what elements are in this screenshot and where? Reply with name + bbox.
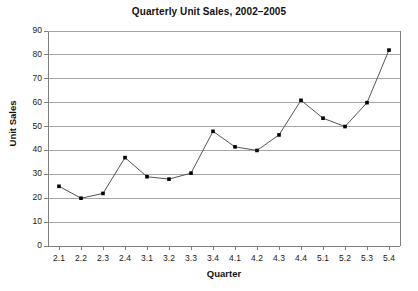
data-point-marker (101, 192, 105, 196)
data-point-marker (233, 145, 237, 149)
y-tick-label: 10 (14, 216, 42, 226)
data-point-marker (211, 130, 215, 134)
x-tick-marks (59, 246, 389, 250)
y-tick-marks (44, 31, 48, 246)
data-point-marker (365, 101, 369, 105)
y-tick-label: 70 (14, 73, 42, 83)
data-point-marker (277, 133, 281, 137)
data-point-marker (299, 98, 303, 102)
y-tick-label: 50 (14, 121, 42, 131)
data-point-marker (57, 184, 61, 188)
data-point-marker (123, 156, 127, 160)
y-tick-label: 0 (14, 240, 42, 250)
data-point-marker (145, 175, 149, 179)
plot-area (0, 0, 418, 291)
data-point-marker (167, 177, 171, 181)
y-tick-label: 80 (14, 49, 42, 59)
data-point-marker (321, 116, 325, 120)
chart-figure: Quarterly Unit Sales, 2002–2005 Unit Sal… (0, 0, 418, 291)
x-tick-label: 5.4 (373, 253, 405, 263)
data-markers (57, 48, 391, 200)
y-tick-label: 90 (14, 25, 42, 35)
data-line-series-unit-sales (59, 50, 389, 198)
data-point-marker (343, 125, 347, 129)
data-point-marker (387, 48, 391, 52)
y-tick-label: 20 (14, 192, 42, 202)
y-tick-label: 60 (14, 97, 42, 107)
y-tick-label: 40 (14, 144, 42, 154)
data-point-marker (189, 171, 193, 175)
y-tick-label: 30 (14, 168, 42, 178)
data-point-marker (255, 149, 259, 153)
data-point-marker (79, 196, 83, 200)
